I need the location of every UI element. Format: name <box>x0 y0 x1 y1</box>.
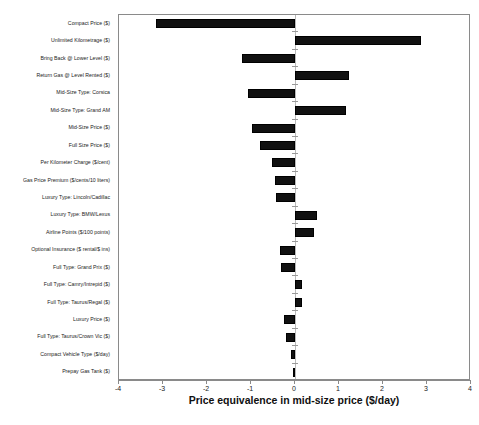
y-axis-label: Unlimited Kilometrage ($) <box>0 37 110 43</box>
bar-row <box>119 154 469 171</box>
x-axis-tick-label: -4 <box>103 385 133 392</box>
y-axis-label: Luxury Price ($) <box>0 316 110 322</box>
y-axis-label: Optional Insurance ($ rental/$ ins) <box>0 246 110 252</box>
bar-row <box>119 207 469 224</box>
bar-row <box>119 311 469 328</box>
bar <box>295 228 314 237</box>
bar <box>280 246 295 255</box>
bar-row <box>119 137 469 154</box>
y-axis-label: Prepay Gas Tank ($) <box>0 368 110 374</box>
bar-row <box>119 329 469 346</box>
chart-figure: Compact Price ($)Unlimited Kilometrage (… <box>0 0 479 425</box>
y-axis-label: Airline Points ($/100 points) <box>0 229 110 235</box>
bar-row <box>119 85 469 102</box>
bar-row <box>119 67 469 84</box>
y-axis-label: Luxury Type: BMW/Lexus <box>0 211 110 217</box>
bar <box>275 176 295 185</box>
y-axis-label: Compact Price ($) <box>0 20 110 26</box>
x-axis-tick <box>250 380 251 384</box>
bar <box>281 263 295 272</box>
bar-row <box>119 346 469 363</box>
bar-row <box>119 32 469 49</box>
bar <box>295 298 302 307</box>
x-axis-tick-label: 3 <box>411 385 441 392</box>
bar <box>291 350 295 359</box>
y-axis-label: Mid-Size Type: Corsica <box>0 89 110 95</box>
x-axis-tick <box>294 380 295 384</box>
bar <box>260 141 295 150</box>
y-axis-label: Full Type: Taurus/Regal ($) <box>0 299 110 305</box>
y-axis-label: Full Type: Grand Prix ($) <box>0 264 110 270</box>
bar <box>286 333 295 342</box>
bar-row <box>119 50 469 67</box>
x-axis-tick <box>162 380 163 384</box>
y-axis-label: Luxury Type: Lincoln/Cadillac <box>0 194 110 200</box>
bar <box>242 54 295 63</box>
bar <box>295 280 302 289</box>
y-axis-label: Compact Vehicle Type ($/day) <box>0 351 110 357</box>
bar-row <box>119 242 469 259</box>
bar <box>284 315 295 324</box>
y-axis-label: Full Type: Camry/Intrepid ($) <box>0 281 110 287</box>
bar-row <box>119 172 469 189</box>
bar <box>295 36 421 45</box>
x-axis-tick-label: 4 <box>455 385 479 392</box>
bar <box>252 124 295 133</box>
bar-row <box>119 189 469 206</box>
bar-row <box>119 276 469 293</box>
bar <box>295 106 346 115</box>
bar <box>272 158 295 167</box>
y-axis-label: Per Kilometer Charge ($/cent) <box>0 159 110 165</box>
x-axis-tick <box>338 380 339 384</box>
x-axis-tick-label: -3 <box>147 385 177 392</box>
x-axis-tick <box>470 380 471 384</box>
plot-area <box>118 14 470 380</box>
bar-row <box>119 120 469 137</box>
x-axis-tick-label: 2 <box>367 385 397 392</box>
x-axis-tick <box>426 380 427 384</box>
y-axis-label: Return Gas @ Level Rented ($) <box>0 72 110 78</box>
y-axis-label: Gas Price Premium ($/cents/10 liters) <box>0 177 110 183</box>
y-axis-label: Bring Back @ Lower Level ($) <box>0 55 110 61</box>
bar <box>295 71 349 80</box>
y-axis-label: Full Size Price ($) <box>0 142 110 148</box>
x-axis-tick-label: 0 <box>279 385 309 392</box>
bar-row <box>119 294 469 311</box>
x-axis-tick-label: 1 <box>323 385 353 392</box>
y-axis-label: Mid-Size Price ($) <box>0 124 110 130</box>
x-axis-tick-label: -1 <box>235 385 265 392</box>
x-axis-tick <box>118 380 119 384</box>
x-axis-tick <box>206 380 207 384</box>
y-axis-label: Full Type: Taurus/Crown Vic ($) <box>0 333 110 339</box>
bar <box>295 211 317 220</box>
bar-row <box>119 102 469 119</box>
y-axis-category-labels: Compact Price ($)Unlimited Kilometrage (… <box>0 14 114 380</box>
x-axis-tick-label: -2 <box>191 385 221 392</box>
bar-row <box>119 259 469 276</box>
y-axis-label: Mid-Size Type: Grand AM <box>0 107 110 113</box>
bar-row <box>119 224 469 241</box>
bar-row <box>119 364 469 381</box>
x-axis-title: Price equivalence in mid-size price ($/d… <box>118 394 470 406</box>
bar <box>156 19 295 28</box>
bar <box>248 89 295 98</box>
bar <box>293 368 295 377</box>
bar <box>276 193 295 202</box>
bar-row <box>119 15 469 32</box>
x-axis-tick <box>382 380 383 384</box>
